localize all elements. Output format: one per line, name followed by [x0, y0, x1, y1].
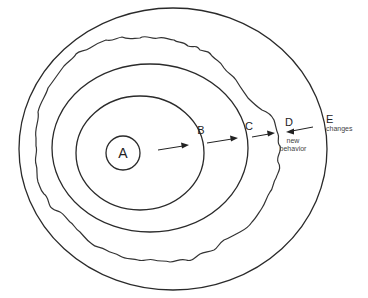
arrowhead-icon	[230, 136, 238, 142]
label-e: E	[326, 113, 333, 125]
note-new: new	[287, 137, 301, 144]
label-d: D	[285, 116, 293, 128]
note-changes: changes	[326, 125, 353, 133]
label-b: B	[197, 124, 204, 136]
arrow-b-to-c	[207, 136, 238, 144]
nested-circles-diagram: A B C D new behavior E changes	[0, 0, 368, 298]
note-behavior: behavior	[280, 145, 308, 152]
middle-ring	[52, 64, 248, 232]
arrow-a-to-b	[158, 143, 189, 151]
arrow-e-to-d	[286, 127, 313, 135]
arrowhead-icon	[267, 131, 275, 137]
arrow-c-to-d	[252, 131, 275, 138]
arrowhead-icon	[181, 143, 189, 149]
wavy-boundary	[35, 37, 280, 262]
arrowhead-icon	[286, 129, 294, 135]
label-c: C	[245, 120, 253, 132]
label-a: A	[118, 145, 128, 161]
